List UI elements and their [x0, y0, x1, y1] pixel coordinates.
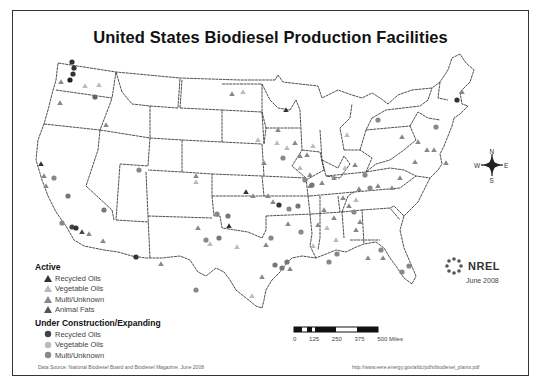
construction-facility-marker [280, 155, 285, 160]
construction-facility-marker [92, 94, 97, 99]
active-facility-marker [307, 172, 313, 177]
legend-item-active-recycled: Recycled Oils [35, 273, 161, 284]
construction-facility-marker [268, 235, 273, 240]
construction-facility-marker [272, 262, 277, 267]
active-facility-marker [234, 244, 240, 249]
construction-facility-marker [101, 207, 106, 212]
triangle-icon [44, 275, 52, 282]
compass-n: N [490, 148, 495, 155]
construction-facility-marker [216, 235, 221, 240]
active-facility-marker [226, 223, 232, 228]
construction-facility-marker [406, 263, 411, 268]
construction-facility-marker [71, 65, 76, 70]
active-facility-marker [443, 160, 449, 165]
active-facility-marker [270, 199, 276, 204]
legend-item-active-multi: Multi/Unknown [35, 294, 161, 305]
legend-construction-header: Under Construction/Expanding [35, 318, 161, 328]
construction-facility-marker [334, 251, 339, 256]
circle-icon [44, 341, 52, 349]
active-facility-marker [397, 175, 403, 180]
active-facility-marker [356, 186, 362, 191]
active-facility-marker [287, 266, 293, 271]
construction-facility-marker [302, 177, 307, 182]
active-facility-marker [58, 79, 64, 84]
active-facility-marker [331, 215, 337, 220]
active-facility-marker [399, 134, 405, 139]
construction-facility-marker [193, 287, 198, 292]
active-facility-marker [346, 203, 352, 208]
active-facility-marker [96, 82, 102, 87]
active-facility-marker [193, 179, 199, 184]
active-facility-marker [41, 173, 47, 178]
active-facility-marker [207, 241, 213, 246]
source-url[interactable]: http://www.eere.energy.gov/afdc/pdfs/bio… [352, 364, 480, 370]
active-facility-marker [240, 89, 246, 94]
construction-facility-marker [286, 206, 291, 211]
nrel-logo-mark [445, 257, 463, 275]
construction-facility-marker [214, 211, 219, 216]
scale-bar [294, 327, 378, 332]
construction-facility-marker [375, 117, 380, 122]
construction-facility-marker [362, 172, 367, 177]
construction-facility-marker [326, 259, 331, 264]
active-facility-marker [319, 180, 325, 185]
construction-facility-marker [276, 202, 281, 207]
legend-item-construction-multi: Multi/Unknown [35, 350, 161, 361]
construction-facility-marker [295, 203, 300, 208]
compass-s: S [490, 177, 495, 184]
map-legend: Active Recycled Oils Vegetable Oils Mult… [35, 262, 161, 361]
construction-facility-marker [51, 175, 56, 180]
active-facility-marker [353, 227, 359, 232]
active-facility-marker [431, 147, 437, 152]
active-facility-marker [193, 173, 199, 178]
data-source-note: Data Source: National Biodiesel Board an… [38, 364, 204, 370]
compass-rose [481, 154, 503, 176]
active-facility-marker [195, 225, 201, 230]
construction-facility-marker [284, 259, 289, 264]
nrel-wordmark: NREL [468, 260, 500, 272]
active-facility-marker [333, 237, 339, 242]
active-facility-marker [459, 89, 465, 94]
active-facility-marker [344, 132, 350, 137]
construction-facility-marker [309, 182, 314, 187]
construction-facility-marker [203, 237, 208, 242]
construction-facility-marker [298, 229, 303, 234]
active-facility-marker [82, 83, 88, 88]
scale-labels: 0 125 250 375 500 Miles [293, 333, 403, 342]
active-facility-marker [255, 137, 261, 142]
legend-item-construction-recycled: Recycled Oils [35, 329, 161, 340]
construction-facility-marker [279, 265, 284, 270]
construction-facility-marker [454, 97, 459, 102]
construction-facility-marker [225, 213, 230, 218]
active-facility-marker [380, 255, 386, 260]
construction-facility-marker [69, 59, 74, 64]
active-facility-marker [57, 100, 63, 105]
active-facility-marker [38, 161, 44, 166]
nrel-logo: NREL [465, 260, 500, 272]
active-facility-marker [100, 238, 106, 243]
active-facility-marker [285, 221, 291, 226]
construction-facility-marker [70, 71, 75, 76]
active-facility-marker [365, 255, 371, 260]
active-facility-marker [274, 140, 280, 145]
active-facility-marker [352, 162, 358, 167]
construction-facility-marker [133, 254, 138, 259]
active-facility-marker [243, 189, 249, 194]
circle-icon [44, 351, 52, 359]
active-facility-marker [283, 107, 289, 112]
compass-w: W [474, 162, 481, 169]
circle-icon [44, 330, 52, 338]
active-facility-marker [375, 183, 381, 188]
active-facility-marker [229, 91, 235, 96]
active-facility-marker [389, 185, 395, 190]
construction-facility-marker [399, 269, 404, 274]
active-facility-marker [292, 140, 298, 145]
triangle-icon [44, 285, 52, 292]
construction-facility-marker [378, 247, 383, 252]
active-facility-marker [259, 274, 265, 279]
construction-facility-marker [65, 193, 70, 198]
active-facility-marker [79, 229, 85, 234]
active-facility-marker [297, 165, 303, 170]
legend-item-active-vegetable: Vegetable Oils [35, 284, 161, 295]
construction-facility-marker [367, 185, 372, 190]
